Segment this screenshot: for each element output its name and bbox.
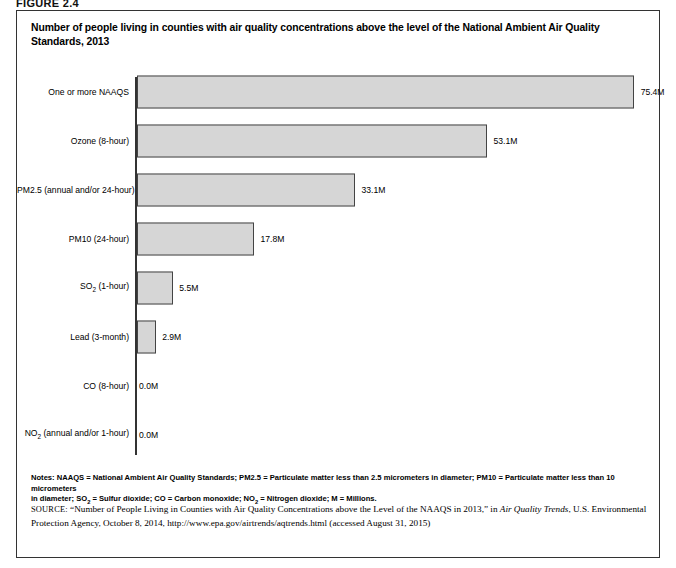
bar-category-label: PM10 (24-hour) (17, 234, 129, 244)
bar-row: One or more NAAQS75.4M (17, 67, 659, 116)
bar-value-label: 53.1M (493, 136, 517, 146)
source-publication: Air Quality Trends (500, 504, 569, 514)
bar-category-label: Lead (3-month) (17, 332, 129, 342)
bar (137, 320, 156, 353)
bar-row: NO2 (annual and/or 1-hour)0.0M (17, 410, 659, 459)
bar (137, 271, 173, 304)
bar-chart-plot-area: One or more NAAQS75.4MOzone (8-hour)53.1… (17, 67, 659, 459)
bar-category-label: PM2.5 (annual and/or 24-hour) (17, 185, 129, 195)
bar-value-label: 17.8M (260, 234, 284, 244)
bar-row: SO2 (1-hour)5.5M (17, 263, 659, 312)
bar-value-label: 33.1M (361, 185, 385, 195)
source-prefix: SOURCE: (31, 505, 68, 514)
bar-row: Lead (3-month)2.9M (17, 312, 659, 361)
bar (137, 222, 254, 255)
bar-value-label: 75.4M (641, 87, 665, 97)
chart-notes: Notes: NAAQS = National Ambient Air Qual… (31, 473, 643, 507)
bar (137, 173, 355, 206)
chart-source: SOURCE: “Number of People Living in Coun… (31, 503, 647, 529)
notes-line-1: Notes: NAAQS = National Ambient Air Qual… (31, 473, 643, 494)
bar-row: PM2.5 (annual and/or 24-hour)33.1M (17, 165, 659, 214)
bar-value-label: 0.0M (139, 381, 158, 391)
figure-number-label: FIGURE 2.4 (16, 0, 79, 9)
bar-value-label: 5.5M (179, 283, 198, 293)
bar-category-label: SO2 (1-hour) (17, 281, 129, 295)
bar (137, 75, 635, 108)
bar-row: Ozone (8-hour)53.1M (17, 116, 659, 165)
source-citation-title: “Number of People Living in Counties wit… (70, 504, 488, 514)
bar-value-label: 0.0M (139, 430, 158, 440)
bar-category-label: CO (8-hour) (17, 381, 129, 391)
bar-row: PM10 (24-hour)17.8M (17, 214, 659, 263)
bar-category-label: One or more NAAQS (17, 87, 129, 97)
bar-row: CO (8-hour)0.0M (17, 361, 659, 410)
figure-container: Number of people living in counties with… (16, 10, 660, 558)
bar-category-label: NO2 (annual and/or 1-hour) (17, 428, 129, 442)
source-in-word: in (490, 504, 497, 514)
figure-title: Number of people living in counties with… (31, 21, 639, 49)
bar-value-label: 2.9M (162, 332, 181, 342)
bar-category-label: Ozone (8-hour) (17, 136, 129, 146)
bar (137, 124, 487, 157)
